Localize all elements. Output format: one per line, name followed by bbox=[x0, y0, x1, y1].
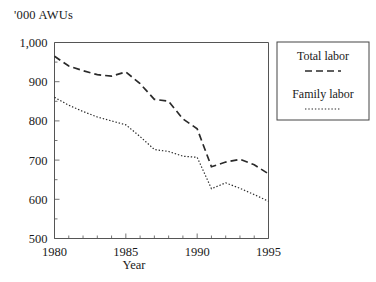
legend-label-family-labor: Family labor bbox=[292, 87, 354, 101]
x-tick-label: 1995 bbox=[256, 245, 281, 259]
x-tick-label: 1990 bbox=[185, 245, 210, 259]
y-tick-label: 900 bbox=[29, 75, 48, 89]
series-line-family-labor bbox=[55, 97, 269, 201]
chart-svg: 5006007008009001,000 1980198519901995 To… bbox=[0, 0, 376, 282]
y-tick-label: 600 bbox=[29, 193, 48, 207]
y-tick-label: 700 bbox=[29, 154, 48, 168]
legend: Total laborFamily labor bbox=[277, 42, 369, 120]
x-tick-label-group: 1980198519901995 bbox=[42, 245, 281, 259]
x-tick-label: 1985 bbox=[113, 245, 138, 259]
chart-container: '000 AWUs Year 5006007008009001,000 1980… bbox=[0, 0, 376, 282]
y-tick-label: 1,000 bbox=[19, 36, 47, 50]
series-group bbox=[55, 56, 269, 201]
y-tick-label: 800 bbox=[29, 114, 48, 128]
y-tick-label-group: 5006007008009001,000 bbox=[19, 36, 47, 246]
legend-label-total-labor: Total labor bbox=[297, 49, 349, 63]
x-tick-label: 1980 bbox=[42, 245, 67, 259]
series-line-total-labor bbox=[55, 56, 269, 174]
